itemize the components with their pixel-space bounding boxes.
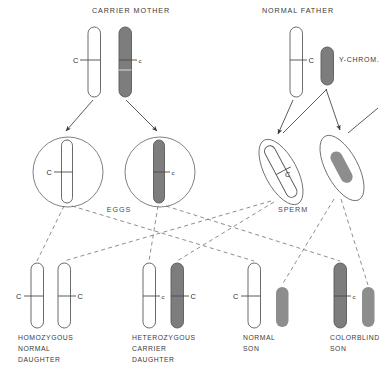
offspring-heterozygous-carrier-daughter: c C HETEROZYGOUS CARRIER DAUGHTER — [132, 263, 197, 363]
hom-daughter-caption-line-2: NORMAL — [18, 345, 50, 352]
inheritance-diagram: CARRIER MOTHER NORMAL FATHER C c — [0, 0, 385, 386]
colorblind-son-caption-line-2: SON — [330, 345, 346, 352]
het-daughter-allele-2: C — [191, 292, 197, 301]
eggs-group-label: EGGS — [107, 205, 131, 214]
arrow-sperm-y-tail — [348, 108, 378, 133]
sperm-cell-y — [311, 129, 373, 208]
het-daughter-caption-line-2: CARRIER — [132, 345, 166, 352]
arrow-father-y-to-sperm-y — [326, 89, 340, 130]
colorblind-son-allele: c — [353, 293, 356, 300]
egg-carrier-allele: c — [172, 169, 175, 176]
egg-cell-carrier: c — [125, 137, 195, 207]
hom-daughter-caption-line-1: HOMOZYGOUS — [18, 334, 73, 341]
mother-x-normal-allele: C — [73, 56, 79, 65]
diagram-canvas: CARRIER MOTHER NORMAL FATHER C c — [0, 0, 385, 386]
dash-egg-normal-to-normal-son — [72, 206, 254, 261]
father-chromosome-pair: C Y-CHROM. — [290, 27, 379, 97]
father-y-chromosome — [321, 47, 334, 85]
sperm-x-allele: C — [285, 170, 291, 179]
hom-daughter-caption-line-3: DAUGHTER — [18, 356, 61, 363]
arrow-mother-x-to-egg-normal — [66, 100, 93, 131]
offspring-colorblind-son: c COLORBLIND SON — [330, 263, 380, 352]
mother-x-carrier-allele: c — [139, 57, 142, 64]
colorblind-son-caption-line-1: COLORBLIND — [330, 334, 380, 341]
mother-x-normal-chromosome: C — [73, 27, 101, 97]
meiosis-arrows — [66, 89, 378, 134]
dash-egg-carrier-to-colorblind-son — [166, 206, 340, 261]
normal-father-title: NORMAL FATHER — [262, 6, 334, 15]
sperm-cell-x: C — [250, 133, 312, 212]
het-daughter-caption-line-3: DAUGHTER — [132, 356, 175, 363]
offspring-normal-son: C NORMAL SON — [233, 263, 289, 352]
het-daughter-allele-1: c — [162, 293, 165, 300]
sperm-group-label: SPERM — [278, 205, 308, 214]
arrow-father-x-to-sperm-x — [278, 100, 293, 134]
normal-son-allele: C — [233, 292, 239, 301]
dash-egg-normal-to-hom-daughter — [37, 206, 64, 261]
mother-x-carrier-chromosome: c — [119, 27, 142, 97]
het-daughter-caption-line-1: HETEROZYGOUS — [132, 334, 196, 341]
father-x-chromosome: C — [290, 27, 315, 97]
arrow-father-y-cross-left — [283, 89, 327, 133]
hom-daughter-allele-1: C — [16, 292, 22, 301]
carrier-mother-title: CARRIER MOTHER — [92, 6, 170, 15]
arrow-mother-c-to-egg-carrier — [126, 100, 157, 131]
dash-egg-carrier-to-het-daughter — [149, 206, 158, 261]
egg-normal-allele: C — [47, 168, 53, 177]
offspring-homozygous-normal-daughter: C C HOMOZYGOUS NORMAL DAUGHTER — [16, 263, 84, 363]
dash-sperm-x-to-hom-daughter — [64, 201, 271, 261]
egg-cell-normal: C — [33, 137, 103, 207]
y-chromosome-label: Y-CHROM. — [339, 56, 379, 63]
fertilization-lines — [37, 199, 368, 285]
mother-chromosome-pair: C c — [73, 27, 142, 97]
normal-son-caption-line-2: SON — [243, 345, 259, 352]
father-x-allele: C — [309, 56, 315, 65]
hom-daughter-allele-2: C — [78, 292, 84, 301]
normal-son-caption-line-1: NORMAL — [243, 334, 275, 341]
